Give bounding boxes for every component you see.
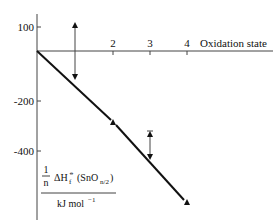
svg-text:n/2: n/2 bbox=[100, 178, 109, 186]
y-axis-label: 1 n ΔH ⦵ f (SnO n/2 ) kJ mol −1 bbox=[41, 164, 116, 209]
x-tick-label: 3 bbox=[147, 37, 153, 49]
y-tick-label: 100 bbox=[18, 21, 35, 33]
chart: 100 -200 -400 2 3 4 Oxidation state 1 n … bbox=[0, 0, 278, 222]
arrow-head-down bbox=[72, 74, 78, 80]
series-line bbox=[37, 51, 111, 120]
arrow-head-up bbox=[147, 131, 153, 137]
svg-text:1: 1 bbox=[44, 164, 49, 175]
arrow-head-up bbox=[72, 22, 78, 28]
svg-text:kJ mol: kJ mol bbox=[57, 198, 84, 209]
svg-text:⦵: ⦵ bbox=[69, 170, 74, 176]
x-tick-label: 4 bbox=[184, 37, 190, 49]
svg-text:−1: −1 bbox=[88, 196, 96, 204]
y-tick-label: -200 bbox=[14, 95, 35, 107]
y-tick-label: -400 bbox=[14, 145, 35, 157]
svg-text:): ) bbox=[110, 172, 113, 184]
svg-text:(SnO: (SnO bbox=[77, 172, 98, 184]
data-point-marker bbox=[184, 199, 190, 205]
svg-text:f: f bbox=[69, 178, 72, 186]
x-tick-label: 2 bbox=[110, 37, 116, 49]
x-axis-label: Oxidation state bbox=[200, 37, 267, 49]
svg-text:ΔH: ΔH bbox=[54, 172, 68, 183]
svg-text:n: n bbox=[44, 177, 49, 188]
